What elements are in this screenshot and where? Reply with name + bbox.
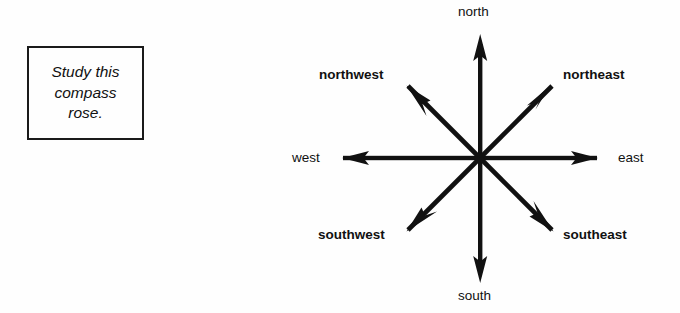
- arrow-north: [473, 34, 487, 158]
- arrow-west: [342, 151, 480, 165]
- arrow-southwest: [407, 158, 481, 232]
- arrow-northeast: [480, 86, 552, 159]
- compass-rose-diagram: north south east west northwest northeas…: [280, 0, 680, 313]
- instruction-text: Study this compass rose.: [45, 62, 125, 123]
- arrow-northwest: [407, 86, 481, 159]
- compass-label-northwest: northwest: [319, 68, 384, 82]
- compass-label-north: north: [458, 5, 489, 19]
- arrow-east: [480, 151, 598, 165]
- compass-label-west: west: [292, 151, 320, 165]
- compass-label-east: east: [618, 151, 644, 165]
- compass-rose-worksheet: Study this compass rose.: [0, 0, 680, 313]
- compass-label-southeast: southeast: [563, 228, 627, 242]
- instruction-box: Study this compass rose.: [27, 46, 144, 140]
- arrow-southeast: [480, 158, 554, 232]
- compass-label-southwest: southwest: [318, 228, 385, 242]
- compass-label-south: south: [458, 289, 491, 303]
- arrow-south: [473, 158, 487, 283]
- compass-label-northeast: northeast: [563, 68, 625, 82]
